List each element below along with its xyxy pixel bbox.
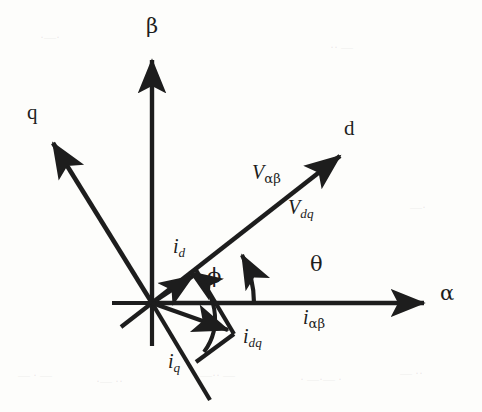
vector-label-i-alphabeta-sub: αβ	[309, 316, 326, 331]
d-axis-line	[152, 156, 340, 303]
d-axis-negative-stub	[121, 303, 152, 327]
vector-label-i-d: id	[173, 236, 185, 259]
vector-label-i-dq-sub: dq	[249, 335, 262, 350]
vector-label-v-dq-sub: dq	[300, 206, 313, 221]
angle-label-phi: ϕ	[207, 266, 221, 287]
axis-label-q: q	[27, 102, 38, 123]
vector-label-v-alphabeta-base: V	[252, 161, 264, 183]
angle-label-theta: θ	[310, 254, 323, 275]
vector-label-v-alphabeta: Vαβ	[252, 162, 281, 185]
vector-label-i-q: iq	[168, 351, 180, 374]
vector-label-i-alphabeta: iαβ	[303, 307, 325, 330]
vector-label-i-q-sub: q	[174, 360, 181, 375]
vector-label-v-alphabeta-sub: αβ	[264, 171, 281, 186]
vector-label-i-d-sub: d	[179, 245, 186, 260]
q-axis-negative-stub	[152, 303, 210, 400]
theta-arc	[242, 255, 254, 303]
vector-label-v-dq-base: V	[288, 196, 300, 218]
axis-label-d: d	[344, 118, 355, 139]
i-d-component-arrow	[152, 276, 193, 303]
vector-label-v-dq: Vdq	[288, 197, 314, 220]
i-q-projection-line	[196, 334, 234, 362]
phasor-diagram-figure: α β d q θ ϕ Vαβ Vdq iαβ idq id iq — · —·…	[0, 0, 482, 412]
axis-label-beta: β	[146, 16, 158, 37]
axis-label-alpha: α	[440, 283, 454, 304]
q-axis-line	[53, 143, 152, 303]
diagram-canvas	[0, 0, 482, 412]
vector-label-i-dq: idq	[243, 326, 262, 349]
